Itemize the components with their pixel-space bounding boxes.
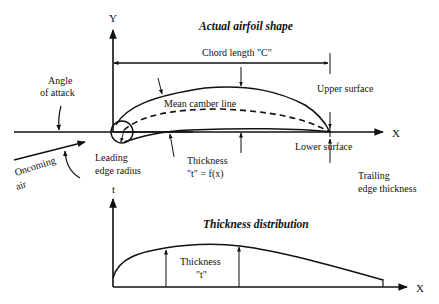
- leading-edge-label-2: edge radius: [95, 165, 141, 176]
- oncoming-air-pointer: [65, 151, 80, 178]
- chord-length-label: Chord length "C": [202, 47, 272, 58]
- x-axis-bottom-label: X: [416, 282, 424, 294]
- mean-camber-line-label: Mean camber line: [164, 98, 237, 109]
- angle-of-attack-arrow: [59, 106, 61, 130]
- airfoil-diagram: Y X Actual airfoil shape Chord length "C…: [0, 0, 439, 304]
- title-thickness-distribution: Thickness distribution: [203, 218, 309, 230]
- angle-of-attack-label-1: Angle: [48, 75, 73, 86]
- thickness-label-2: "t" = f(x): [187, 168, 224, 180]
- upper-surface-label: Upper surface: [317, 83, 374, 94]
- thickness-t-label-1: Thickness: [180, 256, 221, 267]
- thickness-t-label-2: "t": [196, 269, 207, 280]
- trailing-edge-label-2: edge thickness: [358, 183, 417, 194]
- lower-surface-label: Lower surface: [295, 141, 353, 152]
- x-axis-label: X: [392, 127, 400, 139]
- thickness-distribution-panel: t X Thickness distribution Thickness "t": [112, 183, 424, 294]
- trailing-edge-label-1: Trailing: [358, 170, 390, 181]
- thickness-label-1: Thickness: [187, 155, 228, 166]
- lower-surface-curve: [124, 129, 330, 142]
- leading-edge-label-1: Leading: [95, 152, 128, 163]
- oncoming-air-label-2: air: [14, 178, 28, 192]
- y-axis-label: Y: [109, 12, 117, 24]
- t-axis-label: t: [112, 183, 115, 195]
- thickness-curve: [113, 244, 383, 280]
- airfoil-shape-panel: Y X Actual airfoil shape Chord length "C…: [13, 12, 416, 194]
- title-actual-airfoil-shape: Actual airfoil shape: [198, 20, 293, 33]
- angle-of-attack-label-2: of attack: [40, 87, 75, 98]
